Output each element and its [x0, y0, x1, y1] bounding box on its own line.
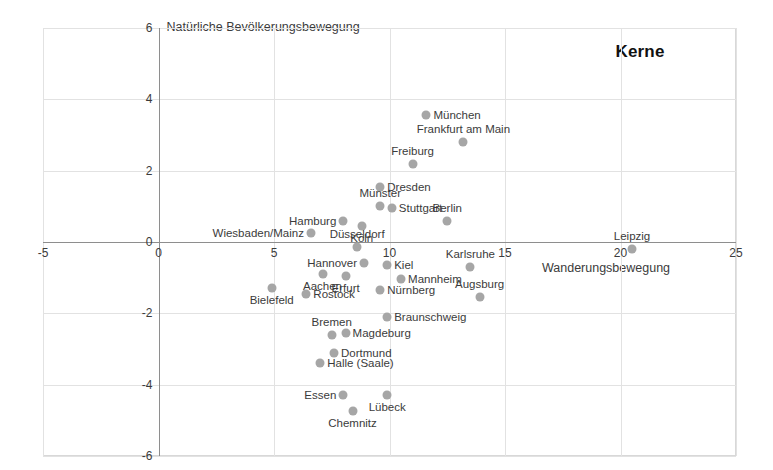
data-point[interactable]	[459, 138, 468, 147]
data-point[interactable]	[397, 275, 406, 284]
data-point-label: Leipzig	[614, 230, 650, 242]
y-tick-label: 4	[146, 93, 153, 105]
data-point-label: Karlsruhe	[446, 248, 495, 260]
data-point-label: München	[433, 109, 480, 121]
data-point-label: Lübeck	[369, 401, 406, 413]
x-tick-label: 5	[271, 247, 278, 259]
data-point-label: Berlin	[433, 202, 462, 214]
data-point[interactable]	[383, 312, 392, 321]
x-tick-label: 25	[729, 247, 742, 259]
data-point-label: Wiesbaden/Mainz	[213, 227, 304, 239]
chart-title: Kerne	[615, 42, 664, 62]
data-point[interactable]	[316, 359, 325, 368]
data-point[interactable]	[267, 284, 276, 293]
x-axis-title: Wanderungsbewegung	[542, 262, 670, 275]
scatter-chart-figure: Kerne Natürliche Bevölkerungsbewegung Wa…	[0, 0, 773, 470]
x-tick-label: 20	[614, 247, 627, 259]
data-point-label: Augsburg	[455, 278, 504, 290]
data-point-label: Münster	[359, 187, 401, 199]
data-point[interactable]	[339, 391, 348, 400]
data-point-label: Rostock	[313, 288, 355, 300]
y-tick-label: -4	[142, 379, 153, 391]
data-point-label: Bremen	[312, 316, 352, 328]
data-point[interactable]	[383, 261, 392, 270]
y-tick-label: 6	[146, 22, 153, 34]
data-point[interactable]	[339, 216, 348, 225]
data-point[interactable]	[318, 270, 327, 279]
x-tick-label: -5	[38, 247, 49, 259]
data-point[interactable]	[327, 330, 336, 339]
data-point-label: Hannover	[307, 257, 357, 269]
data-point[interactable]	[341, 271, 350, 280]
data-point-label: Halle (Saale)	[327, 357, 393, 369]
data-point[interactable]	[475, 293, 484, 302]
y-tick-label: 2	[146, 165, 153, 177]
data-point[interactable]	[376, 286, 385, 295]
x-tick-label: 10	[383, 247, 396, 259]
data-point[interactable]	[353, 243, 362, 252]
data-point-label: Magdeburg	[353, 327, 411, 339]
data-point[interactable]	[302, 289, 311, 298]
data-point[interactable]	[306, 229, 315, 238]
data-point[interactable]	[422, 111, 431, 120]
data-point-label: Düsseldorf	[330, 228, 385, 240]
data-point[interactable]	[628, 245, 637, 254]
y-tick-label: -2	[142, 307, 153, 319]
data-point-label: Frankfurt am Main	[417, 123, 510, 135]
data-point-label: Kiel	[394, 259, 413, 271]
data-point[interactable]	[348, 407, 357, 416]
data-point[interactable]	[376, 202, 385, 211]
data-point[interactable]	[330, 348, 339, 357]
data-point-label: Chemnitz	[328, 417, 377, 429]
data-point-label: Braunschweig	[394, 311, 466, 323]
data-point[interactable]	[387, 204, 396, 213]
data-point[interactable]	[408, 159, 417, 168]
data-point[interactable]	[443, 216, 452, 225]
data-point-label: Bielefeld	[250, 294, 294, 306]
x-tick-label: 0	[155, 247, 162, 259]
data-point[interactable]	[466, 262, 475, 271]
data-point-label: Essen	[304, 389, 336, 401]
data-point-label: Nürnberg	[387, 284, 435, 296]
y-tick-label: -6	[142, 450, 153, 462]
y-tick-label: 0	[146, 236, 153, 248]
data-point[interactable]	[383, 391, 392, 400]
gridline-vertical	[736, 28, 737, 456]
data-point-label: Freiburg	[391, 145, 434, 157]
data-point[interactable]	[360, 259, 369, 268]
data-point-label: Hamburg	[289, 215, 336, 227]
x-tick-label: 15	[498, 247, 511, 259]
data-point[interactable]	[341, 328, 350, 337]
